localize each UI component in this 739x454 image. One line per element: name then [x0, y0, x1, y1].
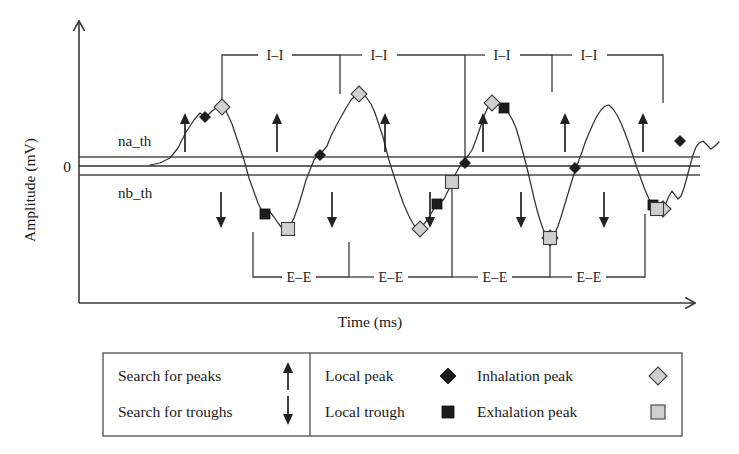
exhalation-peak-marker: [651, 203, 664, 216]
interval-label-ee-2: E–E: [378, 270, 403, 285]
legend-label-inhalation-peak: Inhalation peak: [477, 367, 573, 384]
local-peak-marker: [675, 136, 686, 147]
figure-container: Amplitude (mV) Time (ms) 0 na_th nb_th I…: [0, 0, 739, 454]
x-axis-title: Time (ms): [338, 313, 402, 331]
legend-border: [103, 353, 682, 436]
interval-label-ii-4: I–I: [580, 48, 597, 63]
local-trough-marker: [499, 103, 509, 113]
legend-label-search-for-troughs: Search for troughs: [118, 403, 233, 420]
ee-bracket-1-right: [316, 242, 349, 277]
inhalation-interval-brackets: I–I I–I I–I I–I: [222, 48, 663, 160]
interval-label-ii-1: I–I: [266, 48, 283, 63]
ii-bracket-4-right: [607, 55, 663, 103]
local-trough-marker: [260, 209, 270, 219]
legend: Search for peaks Search for troughs Loca…: [103, 353, 682, 436]
search-up-arrow-4: [478, 113, 488, 152]
interval-label-ii-3: I–I: [493, 48, 510, 63]
interval-label-ii-2: I–I: [370, 48, 387, 63]
black-diamond-icon: [440, 368, 456, 384]
search-down-arrow-2: [327, 192, 337, 228]
ii-bracket-2-right: [397, 55, 465, 160]
respiratory-signal-figure: Amplitude (mV) Time (ms) 0 na_th nb_th I…: [0, 0, 739, 454]
zero-tick-label: 0: [63, 158, 71, 175]
legend-label-exhalation-peak: Exhalation peak: [477, 403, 578, 420]
ii-bracket-1-left: [222, 55, 258, 110]
search-down-arrow-5: [599, 192, 609, 228]
search-up-arrow-5: [560, 113, 570, 152]
legend-label-local-peak: Local peak: [325, 367, 394, 384]
black-square-icon: [442, 406, 454, 418]
search-down-arrow-4: [516, 192, 526, 228]
ee-bracket-3-right: [512, 244, 550, 277]
inhalation-peak-marker: [351, 86, 367, 102]
local-peak-marker: [460, 158, 471, 169]
inhalation-peak-marker: [484, 95, 500, 111]
exhalation-interval-brackets: E–E E–E E–E E–E: [253, 189, 645, 285]
search-up-arrow-6: [638, 113, 648, 152]
local-trough-marker: [432, 199, 442, 209]
interval-label-ee-3: E–E: [482, 270, 507, 285]
inhalation-peak-marker: [214, 99, 230, 115]
interval-label-ee-1: E–E: [286, 270, 311, 285]
ii-bracket-3-right: [520, 55, 552, 92]
search-up-arrow-2: [272, 113, 282, 152]
interval-label-ee-4: E–E: [576, 270, 601, 285]
inhalation-peak-marker: [412, 221, 428, 237]
local-peak-marker: [315, 150, 326, 161]
arrow-up-icon: [283, 362, 293, 390]
search-down-arrow-1: [216, 192, 226, 228]
nb-th-label: nb_th: [118, 185, 153, 201]
legend-label-search-for-peaks: Search for peaks: [118, 367, 221, 384]
legend-label-local-trough: Local trough: [325, 403, 405, 420]
ee-bracket-1-left: [253, 232, 282, 277]
local-peak-marker: [570, 163, 581, 174]
na-th-label: na_th: [118, 133, 152, 149]
exhalation-peak-marker: [282, 223, 295, 236]
gray-diamond-icon: [649, 367, 667, 385]
axes-group: [79, 22, 694, 303]
search-up-arrow-1: [180, 113, 190, 152]
ee-bracket-4-right: [606, 214, 645, 277]
exhalation-peak-marker: [544, 232, 557, 245]
ii-bracket-1-right: [292, 55, 340, 94]
arrow-down-icon: [283, 396, 293, 425]
exhalation-peak-marker: [446, 176, 459, 189]
y-axis-title: Amplitude (mV): [21, 138, 39, 242]
gray-square-icon: [651, 405, 665, 419]
